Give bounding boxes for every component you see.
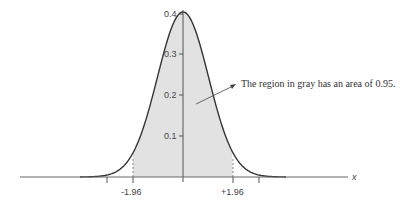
arrow-head-icon: [230, 84, 236, 89]
y-tick-label: 0.1: [164, 131, 177, 141]
y-tick-label: 0.3: [164, 49, 177, 59]
annotation-text: The region in gray has an area of 0.95.: [241, 78, 395, 89]
normal-distribution-chart: 0.4 0.3 0.2 0.1 -1.96 +1.96 x The region…: [0, 0, 420, 207]
x-axis-label: x: [351, 172, 357, 182]
y-tick-label: 0.2: [164, 90, 177, 100]
x-tick-label-pos: +1.96: [221, 187, 244, 197]
y-tick-label: 0.4: [164, 9, 177, 19]
x-tick-label-neg: -1.96: [121, 187, 142, 197]
